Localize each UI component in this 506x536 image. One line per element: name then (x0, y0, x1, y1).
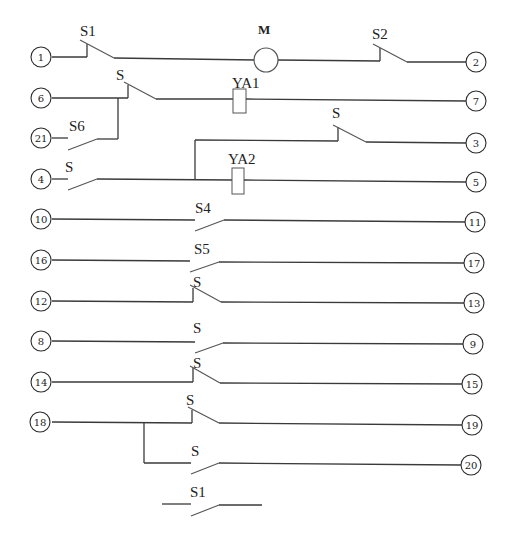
svg-text:2: 2 (473, 57, 479, 68)
circuit-row-1-2: S1 M S2 (52, 22, 466, 72)
svg-text:15: 15 (466, 379, 479, 390)
switch-s-row8-label: S (193, 320, 201, 336)
terminal-7: 7 (466, 91, 486, 111)
circuit-row-16-17: S5 (52, 241, 464, 272)
svg-text:1: 1 (38, 52, 44, 63)
switch-s-row20-label: S (191, 443, 199, 459)
circuit-row-14-15: S (52, 355, 462, 384)
svg-text:11: 11 (469, 217, 482, 228)
terminal-13: 13 (464, 293, 484, 313)
circuit-row-6-7: S YA1 (52, 67, 466, 139)
terminal-17: 17 (464, 253, 484, 273)
switch-s-row18-label: S (186, 392, 194, 408)
svg-text:20: 20 (465, 460, 478, 471)
circuit-row-12-13: S (52, 274, 464, 303)
switch-s-row6-label: S (116, 67, 124, 83)
svg-text:14: 14 (35, 377, 48, 388)
circuit-row-18-19: S (52, 392, 462, 463)
switch-s-row14-label: S (193, 355, 201, 371)
svg-text:6: 6 (38, 93, 44, 104)
svg-text:4: 4 (38, 174, 44, 185)
svg-text:8: 8 (38, 336, 44, 347)
circuit-row-8-9: S (52, 320, 463, 353)
terminal-14: 14 (31, 372, 51, 392)
switch-s5-label: S5 (194, 241, 210, 257)
terminal-1: 1 (31, 47, 51, 67)
svg-text:18: 18 (34, 417, 47, 428)
terminal-4: 4 (31, 169, 51, 189)
coil-ya1-label: YA1 (232, 75, 260, 91)
svg-text:3: 3 (473, 138, 479, 149)
svg-text:19: 19 (466, 420, 479, 431)
switch-s1-bottom-label: S1 (190, 484, 206, 500)
svg-text:17: 17 (468, 258, 481, 269)
coil-ya2 (232, 168, 244, 194)
circuit-row-21: S6 (52, 118, 97, 150)
switch-s1-standalone: S1 (162, 484, 262, 516)
switch-s1-blade (80, 40, 114, 58)
motor-label: M (258, 22, 270, 37)
switch-s6-label: S6 (69, 118, 85, 134)
terminal-21: 21 (31, 128, 51, 148)
circuit-diagram: S1 M S2 S YA1 S6 S S YA (0, 0, 506, 536)
switch-s-row4-blade (68, 179, 97, 190)
switch-s2-blade (373, 44, 407, 62)
switch-s4-blade (195, 220, 224, 231)
switch-s-row6-blade (124, 82, 156, 99)
svg-text:5: 5 (473, 177, 479, 188)
switch-s1-bottom-blade (191, 505, 219, 516)
svg-text:13: 13 (468, 298, 481, 309)
circuit-row-20: S (191, 443, 461, 474)
switch-s-row4-label: S (65, 159, 73, 175)
terminal-11: 11 (465, 212, 485, 232)
circuit-row-10-11: S4 (52, 200, 466, 231)
terminal-20: 20 (461, 455, 481, 475)
terminal-8: 8 (31, 331, 51, 351)
switch-s6-blade (68, 139, 97, 150)
svg-text:7: 7 (473, 96, 479, 107)
terminal-18: 18 (30, 412, 50, 432)
terminal-3: 3 (466, 133, 486, 153)
terminal-9: 9 (463, 334, 483, 354)
terminal-2: 2 (466, 52, 486, 72)
switch-s5-blade (190, 262, 219, 272)
svg-text:10: 10 (35, 214, 48, 225)
switch-s-row20-blade (191, 463, 219, 474)
circuit-row-4-5: S YA2 (52, 151, 466, 194)
terminal-12: 12 (31, 291, 51, 311)
motor-symbol (254, 48, 278, 72)
terminal-16: 16 (31, 250, 51, 270)
switch-s1-label: S1 (80, 23, 96, 39)
coil-ya2-label: YA2 (228, 151, 256, 167)
switch-s2-label: S2 (372, 26, 388, 42)
switch-s4-label: S4 (195, 200, 211, 216)
terminal-6: 6 (31, 88, 51, 108)
terminal-10: 10 (31, 209, 51, 229)
switch-s-row12-label: S (193, 274, 201, 290)
terminal-15: 15 (462, 374, 482, 394)
svg-text:12: 12 (35, 296, 48, 307)
svg-text:9: 9 (470, 339, 476, 350)
switch-s-row8-blade (195, 343, 223, 353)
svg-text:16: 16 (35, 255, 48, 266)
terminal-5: 5 (466, 172, 486, 192)
coil-ya1 (233, 89, 246, 113)
switch-s-row3-label: S (332, 105, 340, 121)
svg-text:21: 21 (35, 133, 48, 144)
terminal-19: 19 (462, 415, 482, 435)
